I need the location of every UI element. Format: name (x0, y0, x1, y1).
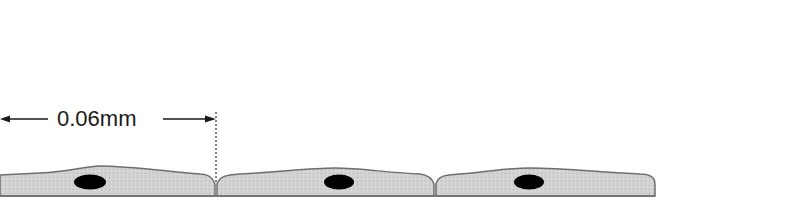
cell-2 (217, 168, 434, 196)
nucleus-2 (324, 175, 354, 190)
nucleus-1 (74, 175, 106, 190)
cell-1 (0, 166, 215, 196)
nucleus-3 (514, 175, 544, 190)
epithelium-diagram: 0.06mm (0, 0, 804, 214)
measurement-label: 0.06mm (57, 106, 136, 132)
arrow-right-icon (163, 116, 216, 123)
arrow-left-icon (0, 116, 48, 123)
cell-3 (436, 168, 655, 196)
